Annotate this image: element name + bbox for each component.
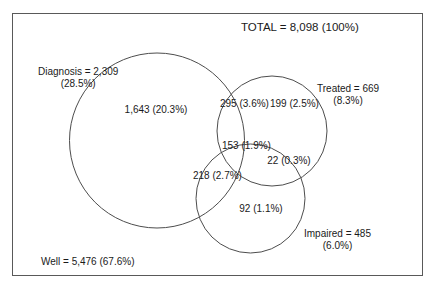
region-all-three-percent: (1.9%) <box>241 140 270 151</box>
region-diagnosis-treated-count: 295 <box>220 98 237 109</box>
set-label-impaired-name: Impaired = 485 <box>304 228 371 239</box>
set-label-well: Well = 5,476 (67.6%) <box>41 256 134 268</box>
total-label: TOTAL = 8,098 (100%) <box>241 20 359 34</box>
region-impaired-only: 92 (1.1%) <box>239 203 283 215</box>
set-label-treated-name: Treated = 669 <box>317 83 379 94</box>
region-diagnosis-only-percent: (20.3%) <box>152 104 187 115</box>
region-diagnosis-impaired: 218 (2.7%) <box>193 170 237 182</box>
region-treated-impaired-count: 22 <box>267 155 278 166</box>
region-treated-impaired: 22 (0.3%) <box>267 155 311 167</box>
region-all-three-count: 153 <box>222 140 239 151</box>
set-label-impaired-percent: (6.0%) <box>304 240 371 252</box>
region-diagnosis-impaired-percent: (2.7%) <box>212 170 241 181</box>
set-label-treated: Treated = 669 (8.3%) <box>317 83 379 107</box>
region-treated-only: 199 (2.5%) <box>270 98 314 110</box>
set-label-treated-percent: (8.3%) <box>317 95 379 107</box>
region-diagnosis-only-count: 1,643 <box>125 104 150 115</box>
region-treated-only-count: 199 <box>270 98 287 109</box>
region-impaired-only-percent: (1.1%) <box>253 203 282 214</box>
region-all-three: 153 (1.9%) <box>222 140 266 152</box>
region-diagnosis-only: 1,643 (20.3%) <box>124 104 188 116</box>
set-label-diagnosis: Diagnosis = 2,309 (28.5%) <box>38 66 118 90</box>
set-label-impaired: Impaired = 485 (6.0%) <box>304 228 371 252</box>
region-treated-impaired-percent: (0.3%) <box>281 155 310 166</box>
region-impaired-only-count: 92 <box>239 203 250 214</box>
set-label-diagnosis-percent: (28.5%) <box>38 78 118 90</box>
region-diagnosis-treated-percent: (3.6%) <box>239 98 268 109</box>
region-diagnosis-treated: 295 (3.6%) <box>220 98 264 110</box>
region-treated-only-percent: (2.5%) <box>289 98 318 109</box>
venn-diagram-figure: TOTAL = 8,098 (100%) Diagnosis = 2,309 (… <box>0 0 436 288</box>
set-label-diagnosis-name: Diagnosis = 2,309 <box>38 66 118 77</box>
region-diagnosis-impaired-count: 218 <box>193 170 210 181</box>
